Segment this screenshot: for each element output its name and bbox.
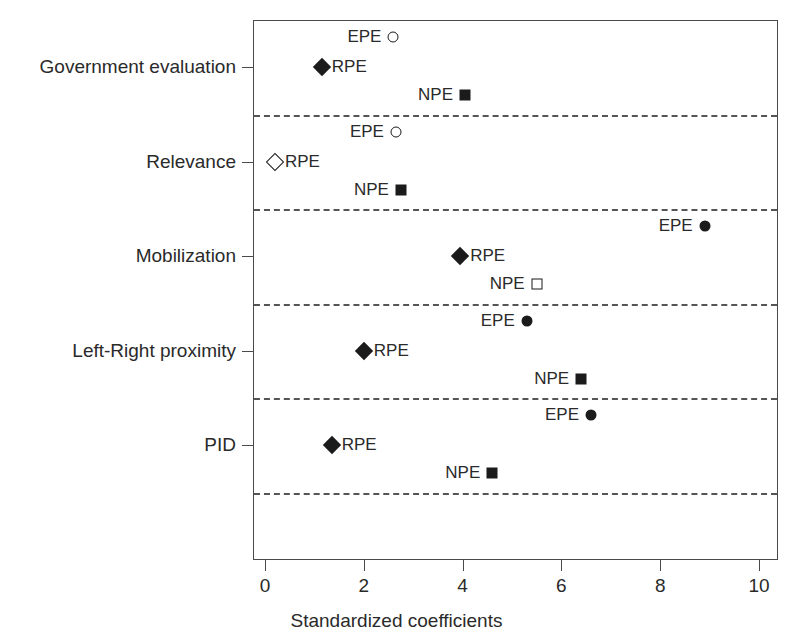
- category-separator: [254, 115, 777, 117]
- data-point-label: NPE: [445, 463, 480, 483]
- data-point-label: EPE: [347, 27, 381, 47]
- y-axis-category-label: Relevance: [146, 151, 236, 173]
- x-axis-tick-label: 2: [359, 575, 370, 597]
- data-point-npe-marker: [487, 468, 498, 479]
- category-separator: [254, 493, 777, 495]
- data-point-npe-marker: [531, 279, 542, 290]
- data-point-label: RPE: [374, 341, 409, 361]
- data-point-npe-marker: [576, 373, 587, 384]
- y-axis-category-label: Left-Right proximity: [72, 340, 236, 362]
- data-point-label: RPE: [285, 152, 320, 172]
- data-point-label: EPE: [350, 122, 384, 142]
- data-point-label: NPE: [534, 369, 569, 389]
- data-point-label: EPE: [659, 216, 693, 236]
- x-axis-tick: [561, 560, 562, 571]
- data-point-label: EPE: [481, 311, 515, 331]
- data-point-epe-marker: [699, 221, 710, 232]
- y-axis-tick: [242, 256, 253, 257]
- data-point-npe-marker: [395, 184, 406, 195]
- data-point-epe-marker: [521, 315, 532, 326]
- x-axis-tick: [660, 560, 661, 571]
- x-axis-tick-label: 0: [260, 575, 271, 597]
- x-axis-tick: [759, 560, 760, 571]
- y-axis-tick: [242, 445, 253, 446]
- x-axis-tick-label: 4: [457, 575, 468, 597]
- data-point-epe-marker: [390, 126, 401, 137]
- y-axis-category-label: Government evaluation: [40, 56, 236, 78]
- y-axis-category-label: Mobilization: [136, 245, 236, 267]
- y-axis-tick: [242, 67, 253, 68]
- data-point-npe-marker: [460, 90, 471, 101]
- x-axis-tick: [265, 560, 266, 571]
- data-point-label: RPE: [470, 246, 505, 266]
- x-axis-tick-label: 6: [556, 575, 567, 597]
- y-axis-category-label: PID: [204, 434, 236, 456]
- data-point-label: NPE: [490, 274, 525, 294]
- x-axis-title: Standardized coefficients: [0, 610, 793, 632]
- data-point-label: NPE: [354, 180, 389, 200]
- y-axis-tick: [242, 351, 253, 352]
- data-point-label: RPE: [342, 435, 377, 455]
- category-separator: [254, 398, 777, 400]
- data-point-epe-marker: [388, 32, 399, 43]
- data-point-label: NPE: [418, 85, 453, 105]
- data-point-epe-marker: [586, 410, 597, 421]
- x-axis-tick: [463, 560, 464, 571]
- x-axis-tick-label: 10: [748, 575, 769, 597]
- data-point-label: RPE: [332, 57, 367, 77]
- chart-root: Government evaluationRelevanceMobilizati…: [0, 0, 793, 641]
- x-axis-tick: [364, 560, 365, 571]
- y-axis-tick: [242, 162, 253, 163]
- data-point-label: EPE: [545, 405, 579, 425]
- x-axis-tick-label: 8: [655, 575, 666, 597]
- category-separator: [254, 209, 777, 211]
- category-separator: [254, 304, 777, 306]
